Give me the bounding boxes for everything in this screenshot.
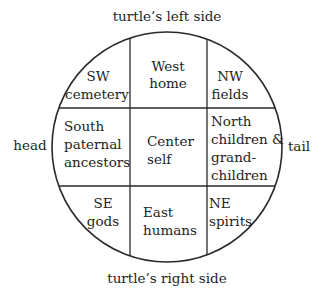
turtle-cosmology-diagram: turtle’s left side turtle’s right side h… — [0, 0, 326, 288]
cell-sw: SW cemetery — [65, 68, 129, 102]
cell-south-line-1: South — [64, 118, 104, 134]
label-right: tail — [288, 138, 310, 154]
cell-sw-line-2: cemetery — [65, 86, 129, 102]
cell-ne-line-2: spirits — [209, 213, 252, 229]
cell-north: North children & grand- children — [211, 113, 284, 183]
cell-west-line-2: home — [149, 75, 187, 91]
cell-se-line-1: SE — [93, 195, 112, 211]
cell-south: South paternal ancestors — [64, 118, 130, 170]
cell-east-line-2: humans — [143, 222, 197, 238]
cell-north-line-4: children — [211, 167, 268, 183]
cell-ne-line-1: NE — [209, 195, 231, 211]
cell-center: Center self — [147, 133, 194, 167]
cell-center-line-1: Center — [147, 133, 194, 149]
cell-west-line-1: West — [151, 58, 185, 74]
cell-se: SE gods — [87, 195, 119, 229]
cell-nw-line-1: NW — [217, 68, 243, 84]
cell-north-line-2: children & — [211, 131, 284, 147]
cell-ne: NE spirits — [209, 195, 252, 229]
cell-sw-line-1: SW — [86, 68, 109, 84]
cell-west: West home — [149, 58, 187, 91]
label-bottom: turtle’s right side — [107, 270, 227, 286]
cell-se-line-2: gods — [87, 213, 119, 229]
cell-east-line-1: East — [143, 204, 174, 220]
cell-nw-line-2: fields — [212, 86, 249, 102]
cell-east: East humans — [143, 204, 197, 238]
label-left: head — [13, 137, 47, 153]
cell-north-line-3: grand- — [211, 149, 256, 165]
cell-nw: NW fields — [212, 68, 249, 102]
cell-north-line-1: North — [211, 113, 252, 129]
label-top: turtle’s left side — [113, 8, 222, 24]
cell-south-line-2: paternal — [64, 136, 122, 152]
cell-south-line-3: ancestors — [64, 154, 130, 170]
cell-center-line-2: self — [147, 151, 172, 167]
